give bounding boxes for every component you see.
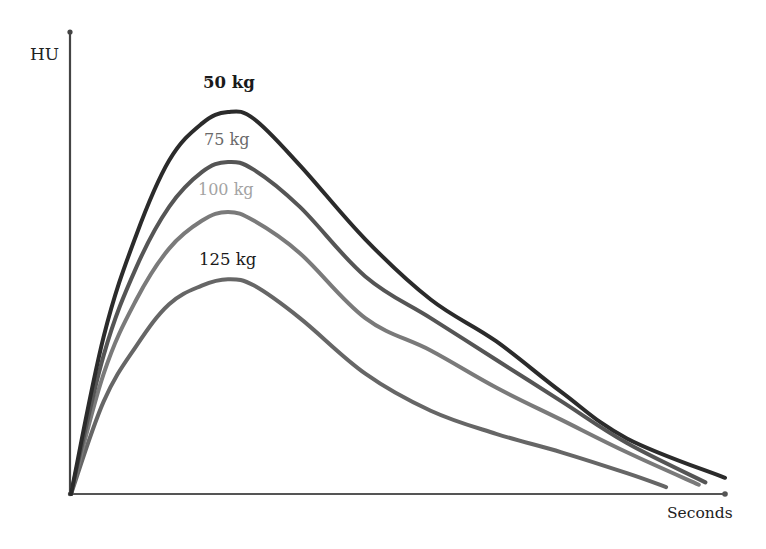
curve-label-100kg: 100 kg [198,180,254,199]
curve-label-125kg: 125 kg [199,250,257,269]
curve-label-75kg: 75 kg [204,130,249,149]
axes [67,29,727,496]
curve-125kg [71,279,666,494]
y-axis-label: HU [30,44,59,64]
x-axis-label: Seconds [667,504,733,522]
y-axis-arrow-icon [67,29,72,34]
chart-canvas: HU Seconds 50 kg 75 kg 100 kg 125 kg [0,0,766,549]
curve-label-50kg: 50 kg [203,73,255,92]
curve-100kg [71,212,699,494]
x-axis-arrow-icon [722,491,728,497]
curves [71,111,725,494]
